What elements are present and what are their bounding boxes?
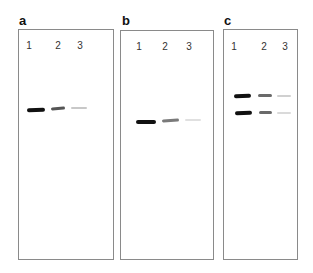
panel-b-label: b	[122, 14, 130, 27]
panel-a-lane-1-label: 1	[26, 41, 32, 51]
panel-b-band-lane-2	[162, 118, 179, 122]
panel-c-label: c	[224, 14, 231, 27]
panel-c-lane-2-label: 2	[261, 42, 267, 52]
panel-b-blot: 1 2 3	[120, 30, 214, 260]
panel-c-band-upper-lane-1	[234, 94, 251, 99]
panel-c-band-lower-lane-2	[259, 111, 272, 114]
panel-c-lane-3-label: 3	[282, 42, 288, 52]
panel-a-band-lane-1	[27, 108, 45, 113]
panel-a-blot: 1 2 3	[18, 29, 114, 260]
panel-b-band-lane-3	[185, 119, 201, 121]
panel-c-band-upper-lane-3	[277, 95, 291, 97]
panel-c-blot: 1 2 3	[223, 29, 298, 260]
panel-c-band-upper-lane-2	[258, 94, 272, 97]
panel-a-band-lane-2	[51, 107, 65, 111]
panel-b-lane-1-label: 1	[136, 42, 142, 52]
panel-b-lane-3-label: 3	[186, 42, 192, 52]
panel-a-lane-3-label: 3	[77, 41, 83, 51]
panel-b-lane-2-label: 2	[162, 42, 168, 52]
panel-c-band-lower-lane-1	[235, 111, 252, 116]
panel-a-band-lane-3	[71, 107, 87, 109]
panel-a-lane-2-label: 2	[55, 41, 61, 51]
panel-c-band-lower-lane-3	[277, 112, 291, 114]
panel-b-band-lane-1	[136, 120, 156, 124]
panel-a-label: a	[19, 14, 26, 27]
panel-c-lane-1-label: 1	[231, 42, 237, 52]
